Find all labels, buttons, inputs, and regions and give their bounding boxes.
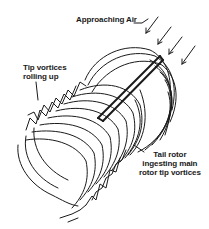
tip-vortices-line-1: Tip vortices [23,63,67,72]
wake-loops [18,85,142,208]
vortex-diagram [0,0,209,229]
tail-rotor-line-1: Tail rotor [139,150,201,159]
tip-vortices-leader [36,82,38,100]
diagram-canvas: Approaching Air Tip vortices rolling up … [0,0,209,229]
tail-rotor-line-2: ingesting main [139,159,201,168]
tip-vortices-label: Tip vortices rolling up [23,63,67,81]
tail-rotor-label: Tail rotor ingesting main rotor tip vort… [139,150,201,177]
approaching-air-label: Approaching Air [76,15,137,24]
wake-arcs-upper [85,48,176,158]
approaching-air-arrows [134,17,195,64]
tip-vortices-line-2: rolling up [23,72,67,81]
tail-rotor-line-3: rotor tip vortices [139,168,201,177]
approaching-air-text: Approaching Air [76,15,137,24]
tail-rotor-blade [98,56,163,121]
